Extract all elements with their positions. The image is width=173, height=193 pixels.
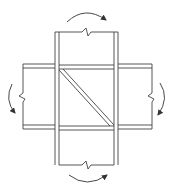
moment-arrow-top xyxy=(67,13,106,22)
beam-right-break xyxy=(148,64,154,129)
column xyxy=(55,28,118,169)
beam-left-break xyxy=(19,64,25,129)
column-top-break xyxy=(55,28,118,36)
beam xyxy=(19,64,154,130)
column-bottom-break xyxy=(59,161,114,169)
joint-diagram xyxy=(0,0,173,193)
moment-arrow-bottom xyxy=(69,175,107,182)
moment-arrow-left xyxy=(9,84,15,113)
moment-arrow-right xyxy=(158,83,165,115)
diagonal-stiffener xyxy=(59,69,114,126)
